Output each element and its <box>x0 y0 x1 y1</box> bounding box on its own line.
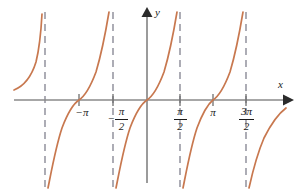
x-axis-label: x <box>278 78 283 90</box>
tick-label-neg-pi-over-2: − π 2 <box>104 106 132 132</box>
x-axis-arrow-icon <box>283 95 294 106</box>
fraction-numerator: π <box>175 106 185 118</box>
tick-label-neg-pi: −π <box>72 107 92 118</box>
fraction-pi-over-2: π 2 <box>174 106 187 132</box>
y-axis-arrow-icon <box>142 7 153 17</box>
fraction-minus-sign: − <box>108 113 114 125</box>
axis-group <box>14 7 294 183</box>
tick-label-pi-over-2: π 2 <box>169 106 191 132</box>
plot-canvas <box>0 0 303 190</box>
tick-label-pi: π <box>205 107 221 118</box>
tangent-function-figure: y x −π − π 2 π 2 π 3π 2 <box>0 0 303 190</box>
fraction-3pi-over-2: 3π 2 <box>239 106 254 132</box>
y-axis-label: y <box>155 6 160 18</box>
fraction-denominator: 2 <box>175 121 185 133</box>
fraction-numerator: 3π <box>239 106 254 118</box>
fraction-neg-pi-over-2: − π 2 <box>108 106 128 132</box>
fraction-numerator: π <box>117 106 127 118</box>
fraction-denominator: 2 <box>242 121 252 133</box>
fraction-denominator: 2 <box>117 121 127 133</box>
tick-label-3pi-over-2: 3π 2 <box>232 106 261 132</box>
fraction-body: π 2 <box>115 106 128 132</box>
tangent-branch-left-partial <box>14 14 42 90</box>
